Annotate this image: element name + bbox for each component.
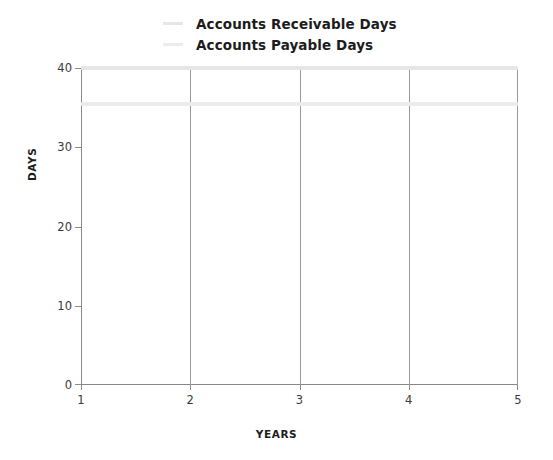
x-axis-tick-label: 5	[514, 393, 521, 407]
y-axis-tick-label: 20	[57, 220, 72, 234]
x-axis-tick-label: 4	[405, 393, 412, 407]
y-axis-title: DAYS	[26, 148, 38, 181]
y-axis-tick	[75, 227, 81, 228]
y-axis-tick-label: 10	[57, 299, 72, 313]
legend-swatch-icon	[163, 43, 183, 46]
y-axis-tick-label: 0	[65, 378, 72, 392]
y-axis-tick-label: 30	[57, 140, 72, 154]
x-gridline	[517, 68, 518, 385]
x-axis-tick	[409, 385, 410, 390]
legend-item-accounts-receivable-days[interactable]: Accounts Receivable Days	[163, 13, 463, 34]
legend-item-label: Accounts Receivable Days	[196, 16, 397, 32]
x-axis-tick	[190, 385, 191, 390]
x-gridline	[190, 68, 191, 385]
y-axis-tick-label: 40	[57, 61, 72, 75]
legend-swatch-icon	[163, 22, 183, 25]
x-axis-title: YEARS	[0, 428, 553, 440]
x-axis-tick	[81, 385, 82, 390]
legend-item-accounts-payable-days[interactable]: Accounts Payable Days	[163, 34, 463, 55]
y-axis-tick	[75, 384, 81, 385]
data-series-line	[81, 66, 518, 70]
x-axis-tick-label: 2	[187, 393, 194, 407]
x-axis-tick-label: 3	[296, 393, 303, 407]
x-axis-tick	[517, 385, 518, 390]
x-axis-tick-label: 1	[77, 393, 84, 407]
chart-container: Accounts Receivable Days Accounts Payabl…	[0, 0, 553, 460]
y-axis-tick	[75, 306, 81, 307]
legend-item-label: Accounts Payable Days	[196, 37, 373, 53]
y-axis-line	[81, 68, 82, 385]
chart-legend: Accounts Receivable Days Accounts Payabl…	[163, 13, 463, 55]
x-gridline	[300, 68, 301, 385]
data-series-line	[81, 102, 518, 106]
x-gridline	[409, 68, 410, 385]
x-axis-tick	[300, 385, 301, 390]
plot-area: 12345 010203040	[81, 68, 518, 385]
y-axis-tick	[75, 147, 81, 148]
